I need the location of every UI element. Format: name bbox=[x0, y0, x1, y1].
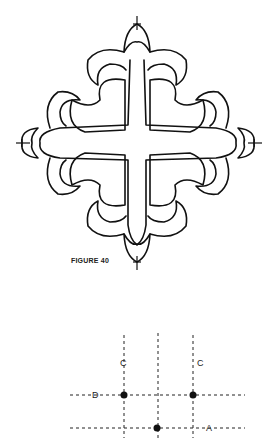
label-d: D bbox=[92, 390, 99, 400]
cross-arms bbox=[40, 60, 236, 245]
point-d-right bbox=[190, 392, 197, 399]
label-c-left: C bbox=[120, 358, 127, 368]
figure-caption: FIGURE 40 bbox=[71, 257, 109, 264]
grid-diagram bbox=[70, 333, 245, 438]
cross-motif-figure bbox=[0, 0, 279, 438]
label-c-right: C bbox=[197, 358, 204, 368]
label-a: A bbox=[206, 423, 212, 433]
point-d-left bbox=[121, 392, 128, 399]
point-a bbox=[154, 425, 161, 432]
